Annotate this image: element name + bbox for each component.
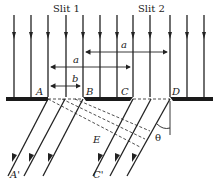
dim-a-top: a <box>121 39 127 50</box>
dim-b: b <box>72 73 78 84</box>
point-E: E <box>92 134 101 145</box>
point-B: B <box>85 86 93 97</box>
point-A: A <box>35 86 43 97</box>
point-A-prime: A' <box>9 169 20 179</box>
incident-rays <box>14 15 204 97</box>
dim-a-middle: a <box>73 54 79 65</box>
slit-plate <box>6 97 213 101</box>
point-C: C <box>121 86 129 97</box>
point-D: D <box>171 86 180 97</box>
point-C-prime: C' <box>93 169 103 179</box>
double-slit-diagram: Slit 1 Slit 2 a a b A B C D E A' C' θ <box>0 0 213 179</box>
slit-1-label: Slit 1 <box>53 3 80 14</box>
diffracted-rays <box>8 99 170 176</box>
slit-2-label: Slit 2 <box>138 3 165 14</box>
incident-arrowheads <box>12 32 206 39</box>
theta-arc <box>157 124 170 129</box>
angle-theta: θ <box>155 132 161 143</box>
